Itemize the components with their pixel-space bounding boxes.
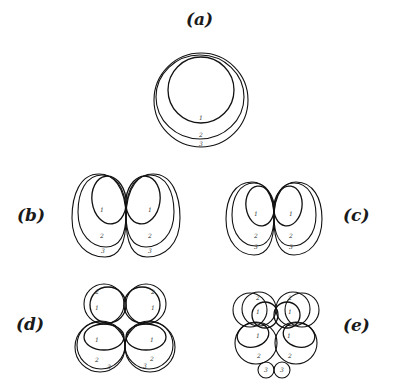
contour-label: 1 bbox=[148, 206, 152, 213]
contour-label: 2 bbox=[253, 232, 258, 239]
contour-label: 1 bbox=[288, 308, 292, 315]
lobe-left-1 bbox=[243, 184, 276, 228]
orbital-diagram: (a) 1 2 3 (b) 1 2 3 1 2 3 (c) 1 2 bbox=[0, 0, 393, 391]
contour-label: 2 bbox=[94, 356, 99, 363]
contour-label: 3 bbox=[143, 362, 147, 369]
panel-c-label: (c) bbox=[343, 205, 369, 225]
panel-e: (e) 2 1 2 1 1 2 1 2 3 3 bbox=[233, 292, 370, 378]
contour-label: 1 bbox=[151, 304, 155, 311]
contour-label: 2 bbox=[99, 232, 104, 239]
contour-label: 1 bbox=[256, 308, 260, 315]
contour-label: 3 bbox=[280, 366, 284, 373]
contour-label: 3 bbox=[101, 247, 105, 254]
contour-label: 2 bbox=[287, 294, 292, 301]
contour-label: 2 bbox=[256, 352, 261, 359]
bottom-right-1 bbox=[126, 324, 166, 350]
contour-label: 1 bbox=[256, 332, 260, 339]
panel-e-label: (e) bbox=[343, 315, 370, 335]
lobe-right-2 bbox=[274, 183, 316, 246]
lobe-left-2 bbox=[232, 183, 274, 246]
top-left-outer bbox=[233, 293, 267, 327]
contour-label: 2 bbox=[288, 232, 293, 239]
lobe-right-1 bbox=[123, 174, 163, 226]
lobe-right-3 bbox=[126, 174, 180, 257]
panel-b: (b) 1 2 3 1 2 3 bbox=[17, 174, 180, 257]
contour-label: 1 bbox=[100, 206, 104, 213]
contour-label: 2 bbox=[150, 288, 155, 295]
contour-label: 1 bbox=[199, 114, 203, 121]
contour-label: 3 bbox=[199, 140, 203, 147]
contour-label: 3 bbox=[254, 243, 258, 250]
lobe-left-3 bbox=[72, 174, 126, 257]
contour-label: 1 bbox=[254, 210, 258, 217]
lobe-right-1 bbox=[271, 184, 304, 228]
contour-label: 3 bbox=[148, 247, 152, 254]
top-right-2 bbox=[276, 292, 310, 326]
contour-label: 1 bbox=[287, 332, 291, 339]
contour-label: 1 bbox=[95, 336, 99, 343]
panel-c: (c) 1 2 3 1 2 3 bbox=[226, 182, 369, 255]
bottom-left-1 bbox=[84, 324, 124, 350]
contour-label: 2 bbox=[287, 352, 292, 359]
contour-label: 3 bbox=[289, 243, 293, 250]
contour-label: 2 bbox=[198, 131, 203, 138]
panel-b-label: (b) bbox=[17, 205, 45, 225]
panel-d: (d) 2 1 2 1 1 2 3 1 2 3 bbox=[16, 284, 175, 372]
panel-a-label: (a) bbox=[186, 9, 213, 29]
contour-label: 2 bbox=[149, 355, 154, 362]
contour-label: 3 bbox=[107, 363, 111, 370]
contour-label: 2 bbox=[255, 294, 260, 301]
panel-d-label: (d) bbox=[16, 314, 44, 334]
contour-label: 1 bbox=[150, 336, 154, 343]
contour-label: 3 bbox=[264, 366, 268, 373]
panel-a: (a) 1 2 3 bbox=[154, 9, 248, 147]
contour-label: 2 bbox=[147, 232, 152, 239]
contour-label: 1 bbox=[289, 210, 293, 217]
contour-label: 1 bbox=[95, 304, 99, 311]
contour-label: 2 bbox=[94, 288, 99, 295]
lobe-left-1 bbox=[89, 174, 129, 226]
